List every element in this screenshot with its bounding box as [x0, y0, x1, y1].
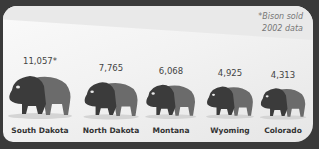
bison-icon: [4, 70, 76, 120]
value-label: 11,057*: [3, 56, 80, 66]
bison-icon: [257, 84, 309, 120]
category-label: South Dakota: [3, 126, 80, 135]
bar-south-dakota: 11,057* South Dakota: [3, 6, 80, 142]
value-label: 4,313: [243, 70, 313, 80]
bar-colorado: 4,313 Colorado: [243, 6, 313, 142]
category-label: Colorado: [243, 126, 313, 135]
chart-panel: *Bison sold 2002 data 11,057* South Dako…: [3, 6, 313, 142]
